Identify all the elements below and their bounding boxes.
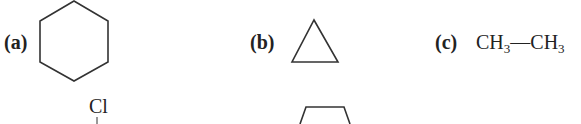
group-2: CH — [530, 31, 558, 53]
structures-canvas — [0, 0, 581, 124]
triangle-structure — [292, 20, 338, 62]
hexagon-structure — [40, 1, 108, 81]
group-1: CH — [476, 31, 504, 53]
option-a-label: (a) — [4, 31, 27, 54]
pentagon-partial-structure — [300, 107, 350, 124]
subscript-2: 3 — [558, 41, 565, 56]
ethane-formula: CH3—CH3 — [476, 31, 565, 54]
option-b-label: (b) — [250, 31, 274, 54]
chlorine-label: Cl — [89, 95, 108, 118]
option-c-label: (c) — [435, 31, 457, 54]
single-bond: — — [510, 31, 530, 53]
